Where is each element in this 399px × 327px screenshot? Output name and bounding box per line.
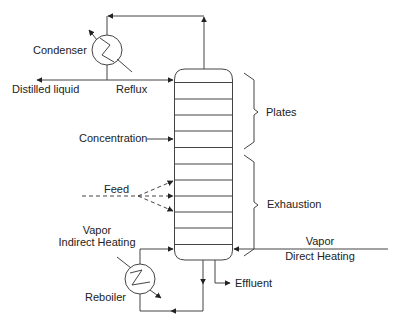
vapor-direct-label-2: Direct Heating (285, 251, 355, 262)
condenser-label: Condenser (33, 45, 87, 56)
effluent-label: Effluent (235, 278, 272, 289)
reboiler-label: Reboiler (85, 292, 126, 303)
effluent-pipe (215, 260, 230, 283)
distilled-liquid-label: Distilled liquid (12, 84, 79, 95)
plates-label: Plates (266, 107, 297, 118)
vapor-direct-label-1: Vapor (306, 236, 335, 247)
concentration-label: Concentration (79, 133, 148, 144)
overhead-vapor-pipe (107, 16, 204, 69)
feed-label: Feed (104, 184, 129, 195)
condenser-icon (89, 30, 132, 80)
exhaustion-brace (244, 155, 258, 256)
column-plates (175, 83, 233, 245)
vapor-indirect-label-2: Indirect Heating (58, 237, 135, 248)
distillation-column (175, 69, 233, 260)
reflux-label: Reflux (116, 84, 147, 95)
exhaustion-label: Exhaustion (267, 199, 321, 210)
vapor-indirect-label-1: Vapor (83, 225, 112, 236)
plates-brace (244, 73, 258, 149)
